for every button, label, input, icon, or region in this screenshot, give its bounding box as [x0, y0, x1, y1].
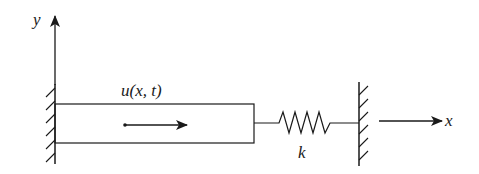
spring-icon: k	[254, 112, 359, 162]
x-axis-label: x	[444, 111, 453, 130]
y-axis: y	[31, 10, 55, 85]
direction-arrow-icon	[123, 123, 187, 127]
displacement-label: u(x, t)	[121, 81, 162, 100]
spring-constant-label: k	[298, 143, 306, 162]
bar	[55, 104, 254, 143]
left-wall-hatch-icon	[46, 88, 55, 162]
right-wall	[359, 82, 368, 166]
left-wall	[46, 84, 55, 164]
x-axis: x	[379, 111, 453, 130]
y-axis-label: y	[31, 10, 41, 29]
right-wall-hatch-icon	[359, 86, 368, 160]
diagram-canvas: y u(x, t) k	[0, 0, 479, 174]
